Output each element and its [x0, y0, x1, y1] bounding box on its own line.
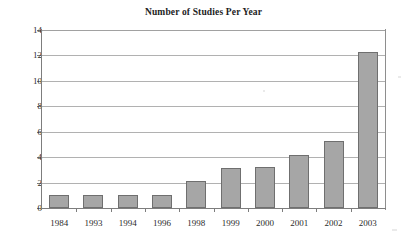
y-tick-label: 6 — [8, 128, 42, 137]
x-tick-label: 1993 — [76, 218, 110, 228]
x-tick-label: 2001 — [282, 218, 316, 228]
bar — [289, 155, 309, 208]
x-tick-label: 1996 — [145, 218, 179, 228]
x-tick-label: 2003 — [351, 218, 385, 228]
x-tick-mark — [76, 208, 77, 212]
x-tick-mark — [179, 208, 180, 212]
bar — [324, 141, 344, 208]
x-tick-label: 1999 — [214, 218, 248, 228]
scan-speckle — [263, 90, 265, 92]
x-tick-mark — [248, 208, 249, 212]
bar — [49, 195, 69, 208]
x-tick-mark — [282, 208, 283, 212]
chart-title: Number of Studies Per Year — [0, 7, 407, 17]
bar — [221, 168, 241, 208]
x-axis-labels: 1984199319941996199819992000200120022003 — [42, 208, 385, 244]
plot-right-frame-line — [385, 29, 386, 210]
y-axis-ticks: 02468101214 — [0, 0, 42, 244]
x-tick-mark — [111, 208, 112, 212]
y-tick-label: 2 — [8, 179, 42, 188]
x-tick-label: 2000 — [248, 218, 282, 228]
bar-series — [42, 30, 385, 208]
plot-area — [42, 30, 385, 208]
y-tick-label: 12 — [8, 51, 42, 60]
x-tick-mark — [316, 208, 317, 212]
bar — [83, 195, 103, 208]
scan-speckle — [392, 229, 397, 231]
bar-chart-figure: Number of Studies Per Year 02468101214 1… — [0, 0, 407, 244]
x-tick-label: 2002 — [316, 218, 350, 228]
x-tick-mark — [214, 208, 215, 212]
bar — [118, 195, 138, 208]
y-tick-label: 10 — [8, 77, 42, 86]
bar — [358, 52, 378, 208]
bar — [255, 167, 275, 208]
scan-speckle — [398, 76, 401, 78]
x-tick-mark — [145, 208, 146, 212]
y-tick-label: 8 — [8, 102, 42, 111]
x-tick-label: 1994 — [111, 218, 145, 228]
x-tick-label: 1984 — [42, 218, 76, 228]
y-tick-label: 0 — [8, 204, 42, 213]
x-tick-label: 1998 — [179, 218, 213, 228]
bar — [152, 195, 172, 208]
x-tick-mark — [351, 208, 352, 212]
y-tick-label: 14 — [8, 26, 42, 35]
bar — [186, 181, 206, 208]
y-tick-label: 4 — [8, 153, 42, 162]
